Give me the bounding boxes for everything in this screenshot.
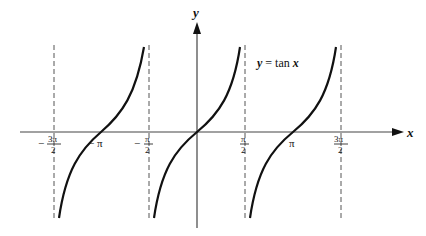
x-axis-label: x [406, 125, 414, 140]
svg-text:−: − [88, 137, 94, 149]
svg-text:2: 2 [338, 145, 343, 155]
tick-label-pi: π [289, 137, 295, 149]
tick-label-neg-pi-2: − π 2 [134, 134, 153, 155]
svg-text:−: − [134, 137, 140, 149]
x-axis-arrow-icon [392, 128, 404, 136]
tan-graph: y x y = tan x − 3π 2 − π − π 2 π 2 π 3π … [0, 0, 426, 236]
svg-text:2: 2 [145, 145, 150, 155]
y-axis-label: y [191, 5, 199, 20]
svg-text:2: 2 [51, 145, 56, 155]
equation-x: x [292, 56, 299, 70]
y-axis-arrow-icon [193, 22, 201, 34]
svg-text:3π: 3π [48, 134, 58, 144]
svg-text:3π: 3π [334, 134, 344, 144]
tick-label-neg-3pi-2: − 3π 2 [38, 134, 61, 155]
tick-label-neg-pi: − π [88, 137, 103, 149]
tick-label-pi-2: π 2 [240, 134, 249, 155]
svg-text:−: − [38, 137, 44, 149]
svg-text:2: 2 [241, 145, 246, 155]
svg-text:π: π [97, 137, 103, 149]
equation-middle: = tan [262, 56, 292, 70]
svg-text:π: π [145, 134, 150, 144]
equation-label: y = tan x [255, 56, 299, 70]
tick-label-3pi-2: 3π 2 [334, 134, 348, 155]
svg-text:π: π [241, 134, 246, 144]
svg-text:π: π [289, 137, 295, 149]
